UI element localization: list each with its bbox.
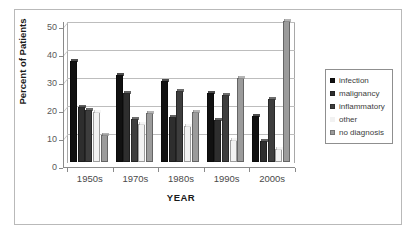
legend-item: infection xyxy=(330,74,389,87)
bar xyxy=(78,107,85,162)
bar-face xyxy=(93,112,100,162)
plot-area xyxy=(63,22,295,168)
bar-group xyxy=(67,22,113,162)
bar-top xyxy=(117,73,124,76)
bar xyxy=(230,140,237,162)
bar-face xyxy=(138,124,145,162)
x-tick-label: 1980s xyxy=(158,173,204,184)
x-tick-mark xyxy=(67,168,68,172)
bar-face xyxy=(275,149,282,162)
bar-group xyxy=(113,22,159,162)
x-tick-label: 1990s xyxy=(204,173,250,184)
legend-item: no diagnosis xyxy=(330,126,389,139)
legend-label: infection xyxy=(339,76,369,85)
bar-face xyxy=(237,78,244,162)
y-tick-mark xyxy=(59,56,63,57)
x-axis-tick-labels: 1950s1970s1980s1990s2000s xyxy=(63,173,299,187)
bar-top xyxy=(238,76,245,79)
bar-face xyxy=(184,126,191,162)
bar-top xyxy=(124,91,131,94)
bar-top xyxy=(284,19,291,22)
bar xyxy=(252,116,259,162)
bar-face xyxy=(116,75,123,162)
bar-face xyxy=(283,21,290,162)
bar-face xyxy=(169,117,176,162)
y-tick-mark xyxy=(59,28,63,29)
x-tick-mark xyxy=(113,168,114,172)
bar-top xyxy=(132,117,139,120)
bar xyxy=(161,81,168,162)
bar-group xyxy=(249,22,295,162)
bar-top xyxy=(193,110,200,113)
bar xyxy=(70,61,77,162)
bar xyxy=(176,91,183,162)
bar-top xyxy=(269,97,276,100)
x-tick-label: 2000s xyxy=(249,173,295,184)
legend-label: inflammatory xyxy=(339,102,385,111)
bar-top xyxy=(177,89,184,92)
y-tick-mark xyxy=(59,84,63,85)
bar-face xyxy=(101,135,108,162)
legend-label: no diagnosis xyxy=(339,128,384,137)
bar-top xyxy=(253,114,260,117)
bar-face xyxy=(146,113,153,162)
bar-top xyxy=(162,79,169,82)
x-tick-label: 1950s xyxy=(67,173,113,184)
legend-swatch-malignancy xyxy=(330,91,335,96)
legend-item: malignancy xyxy=(330,87,389,100)
bar xyxy=(138,124,145,162)
bar-group xyxy=(158,22,204,162)
bar-top xyxy=(208,91,215,94)
x-tick-label: 1970s xyxy=(113,173,159,184)
bar-face xyxy=(230,140,237,162)
x-tick-mark xyxy=(295,168,296,172)
legend-swatch-infection xyxy=(330,78,335,83)
bar-top xyxy=(147,111,154,114)
bar-face xyxy=(214,120,221,162)
bar-face xyxy=(161,81,168,162)
bar-top xyxy=(102,133,109,136)
chart-figure: 01020304050 Percent of Patients 1950s197… xyxy=(0,0,418,239)
bar-face xyxy=(85,110,92,162)
bar-top xyxy=(79,105,86,108)
bar-top xyxy=(94,110,101,113)
bar xyxy=(214,120,221,162)
x-tick-mark xyxy=(249,168,250,172)
y-tick-label: 40 xyxy=(35,51,57,60)
bar-face xyxy=(70,61,77,162)
bar xyxy=(184,126,191,162)
bar xyxy=(268,99,275,162)
bar xyxy=(146,113,153,162)
legend-label: other xyxy=(339,115,357,124)
legend-swatch-no-diagnosis xyxy=(330,130,335,135)
bar-top xyxy=(71,59,78,62)
bar-group xyxy=(204,22,250,162)
bar xyxy=(222,95,229,162)
bar xyxy=(85,110,92,162)
bar-face xyxy=(78,107,85,162)
bar xyxy=(131,119,138,162)
bar xyxy=(237,78,244,162)
x-tick-mark xyxy=(158,168,159,172)
bar-face xyxy=(222,95,229,162)
legend-swatch-inflammatory xyxy=(330,104,335,109)
bar xyxy=(260,141,267,162)
bar-face xyxy=(207,93,214,162)
chart-legend: infectionmalignancyinflammatoryotherno d… xyxy=(325,69,393,144)
bar xyxy=(123,93,130,162)
y-tick-label: 0 xyxy=(35,163,57,172)
y-tick-label: 20 xyxy=(35,107,57,116)
bar-face xyxy=(268,99,275,162)
bar xyxy=(169,117,176,162)
bar xyxy=(93,112,100,162)
legend-item: other xyxy=(330,113,389,126)
y-tick-mark xyxy=(59,140,63,141)
plot-floor xyxy=(63,162,295,168)
bar-face xyxy=(123,93,130,162)
bars-layer xyxy=(67,22,295,162)
bar xyxy=(207,93,214,162)
bar xyxy=(275,149,282,162)
y-tick-label: 10 xyxy=(35,135,57,144)
y-tick-mark xyxy=(59,112,63,113)
bar-face xyxy=(131,119,138,162)
